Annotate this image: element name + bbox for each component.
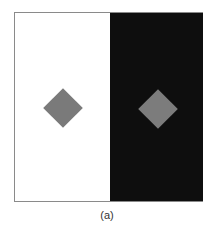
- gray-diamond-right: [138, 89, 178, 129]
- black-panel: [110, 13, 203, 201]
- figure-frame: [14, 12, 203, 202]
- gray-diamond-left: [43, 88, 83, 128]
- figure-caption: (a): [0, 209, 214, 221]
- white-panel: [15, 13, 110, 201]
